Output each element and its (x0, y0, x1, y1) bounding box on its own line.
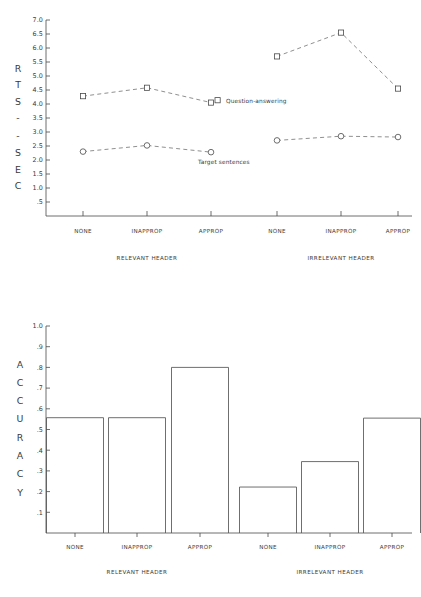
data-point-marker-square (338, 30, 343, 35)
y-tick-label-rt: 1.0 (33, 184, 43, 192)
data-point-marker-square (395, 86, 400, 91)
data-point-marker-circle (144, 143, 150, 149)
y-axis-title-letter-acc: Y (16, 487, 23, 498)
y-axis-title-letter-acc: R (17, 432, 24, 443)
y-tick-label-rt: 7.0 (33, 16, 43, 24)
y-tick-label-acc: .9 (37, 343, 43, 351)
x-axis-category-labels-acc: NONEINAPPROPAPPROPNONEINAPPROPAPPROP (66, 544, 404, 550)
y-tick-label-acc: .3 (37, 467, 43, 475)
y-tick-label-rt: 6.5 (33, 30, 43, 38)
y-tick-label-rt: 4.0 (33, 100, 43, 108)
x-axis-category-label-acc: NONE (66, 544, 84, 550)
x-axis-group-label-acc: RELEVANT HEADER (107, 569, 168, 575)
y-tick-label-rt: 2.5 (33, 142, 43, 150)
y-axis-tick-labels-rt: 7.06.56.05.55.04.54.03.53.02.52.01.51.0.… (33, 16, 43, 206)
y-axis-title-letter-acc: A (17, 359, 24, 370)
y-tick-label-rt: 3.5 (33, 114, 43, 122)
x-axis-category-label-rt: INAPPROP (326, 228, 357, 234)
series-line-2 (277, 136, 398, 140)
data-point-marker-square (80, 94, 85, 99)
y-tick-label-rt: 3.0 (33, 128, 43, 136)
y-axis-title-letter-rt: S (15, 147, 21, 158)
bar-5 (302, 462, 359, 533)
x-axis-category-labels-rt: NONEINAPPROPAPPROPNONEINAPPROPAPPROP (74, 228, 410, 234)
y-axis-title-letter-acc: U (17, 413, 24, 424)
y-tick-label-acc: .2 (37, 488, 43, 496)
accuracy-chart-panel: 1.0.9.8.7.6.5.4.3.2.1 ACCURACY NONEINAPP… (0, 310, 421, 597)
bar-1 (47, 418, 104, 533)
y-axis-title-letter-acc: C (17, 377, 24, 388)
y-tick-label-acc: .1 (37, 509, 43, 517)
y-axis-title-letter-rt: - (16, 112, 19, 123)
accuracy-plot: 1.0.9.8.7.6.5.4.3.2.1 ACCURACY NONEINAPP… (0, 310, 421, 597)
figure-container: 7.06.56.05.55.04.54.03.53.02.52.01.51.0.… (0, 0, 421, 597)
legend-marker-square (215, 98, 220, 103)
y-axis-title-rt: RTS--SEC (14, 63, 22, 191)
x-axis-category-label-rt: APPROP (386, 228, 411, 234)
y-tick-label-rt: 2.0 (33, 156, 43, 164)
x-axis-category-label-rt: NONE (74, 228, 92, 234)
y-tick-label-rt: 5.5 (33, 58, 43, 66)
data-point-marker-square (144, 85, 149, 90)
y-axis-title-letter-rt: - (16, 130, 19, 141)
data-point-marker-square (208, 100, 213, 105)
x-axis-group-labels-rt: RELEVANT HEADERIRRELEVANT HEADER (117, 255, 375, 261)
y-tick-label-rt: .5 (37, 198, 43, 206)
legend-label-question-answering: Question-answering (226, 98, 287, 105)
y-axis-title-acc: ACCURACY (16, 359, 24, 498)
x-axis-group-label-rt: IRRELEVANT HEADER (307, 255, 374, 261)
x-axis-category-label-acc: APPROP (188, 544, 213, 550)
x-axis-ticks-acc (75, 533, 392, 537)
legend-label-target-sentences: Target sentences (197, 159, 250, 166)
y-axis-title-letter-rt: C (15, 180, 22, 191)
x-axis-group-label-acc: IRRELEVANT HEADER (296, 569, 363, 575)
y-tick-label-acc: .7 (37, 384, 43, 392)
y-tick-label-rt: 1.5 (33, 170, 43, 178)
y-axis-title-letter-rt: T (14, 79, 21, 90)
y-axis-title-letter-acc: C (17, 468, 24, 479)
x-axis-ticks-rt (83, 211, 398, 216)
y-tick-label-acc: .8 (37, 364, 43, 372)
bar-4 (240, 487, 297, 533)
bar-group-acc (47, 367, 421, 533)
x-axis-group-label-rt: RELEVANT HEADER (117, 255, 178, 261)
y-tick-label-acc: .5 (37, 426, 43, 434)
y-tick-label-rt: 5.0 (33, 72, 43, 80)
y-axis-title-letter-rt: E (15, 164, 21, 175)
x-axis-group-labels-acc: RELEVANT HEADERIRRELEVANT HEADER (107, 569, 364, 575)
y-axis-tick-labels-acc: 1.0.9.8.7.6.5.4.3.2.1 (33, 322, 43, 516)
y-tick-label-rt: 6.0 (33, 44, 43, 52)
y-tick-label-acc: .4 (37, 447, 43, 455)
series-line-1 (277, 33, 398, 89)
x-axis-category-label-acc: NONE (259, 544, 277, 550)
y-axis-title-letter-acc: A (17, 450, 24, 461)
data-point-marker-square (274, 54, 279, 59)
y-tick-label-acc: .6 (37, 405, 43, 413)
data-point-marker-circle (274, 138, 280, 144)
x-axis-category-label-acc: INAPPROP (315, 544, 346, 550)
bar-2 (109, 418, 166, 533)
x-axis-category-label-rt: NONE (268, 228, 286, 234)
data-point-marker-circle (338, 133, 344, 139)
y-axis-title-letter-rt: S (15, 96, 21, 107)
data-point-marker-circle (80, 149, 86, 155)
bar-6 (364, 418, 421, 533)
y-tick-label-acc: 1.0 (33, 322, 43, 330)
x-axis-category-label-acc: INAPPROP (122, 544, 153, 550)
reaction-time-chart-panel: 7.06.56.05.55.04.54.03.53.02.52.01.51.0.… (0, 0, 421, 300)
x-axis-category-label-rt: APPROP (199, 228, 224, 234)
reaction-time-plot: 7.06.56.05.55.04.54.03.53.02.52.01.51.0.… (0, 0, 421, 300)
y-axis-title-letter-rt: R (15, 63, 22, 74)
y-tick-label-rt: 4.5 (33, 86, 43, 94)
x-axis-category-label-acc: APPROP (380, 544, 405, 550)
data-series-group-rt (80, 30, 401, 155)
data-point-marker-circle (208, 149, 214, 155)
data-point-marker-circle (395, 134, 401, 140)
series-inline-labels-rt: Question-answeringTarget sentences (197, 98, 287, 167)
x-axis-category-label-rt: INAPPROP (132, 228, 163, 234)
y-axis-ticks-rt (46, 20, 50, 202)
y-axis-title-letter-acc: C (17, 395, 24, 406)
bar-3 (172, 367, 229, 533)
